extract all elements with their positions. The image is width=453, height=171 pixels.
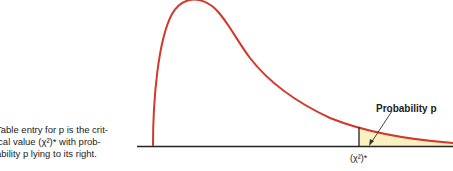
- chi-square-diagram: Probability p (χ²)*: [0, 0, 453, 171]
- probability-label: Probability p: [376, 103, 437, 114]
- density-curve: [153, 0, 453, 146]
- critical-value-label: (χ²)*: [350, 153, 368, 163]
